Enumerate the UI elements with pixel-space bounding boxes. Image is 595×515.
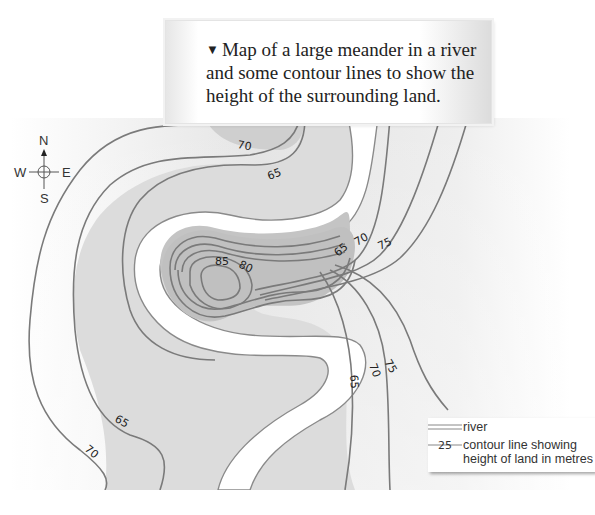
caption-bullet-icon: ▼: [206, 42, 219, 57]
river-symbol-icon: [428, 423, 462, 431]
page-bottom-strip: [0, 490, 595, 515]
compass-west: W: [14, 165, 26, 180]
legend-contour-label: contour line showing height of land in m…: [463, 438, 593, 466]
caption-text: Map of a large meander in a river and so…: [206, 39, 476, 106]
svg-text:70: 70: [236, 138, 252, 153]
compass-rose: N W E S: [14, 133, 74, 213]
svg-text:65: 65: [347, 374, 361, 389]
caption-box: ▼Map of a large meander in a river and s…: [165, 20, 492, 124]
contour-symbol-icon: 25: [428, 438, 462, 452]
compass-east: E: [62, 165, 71, 180]
compass-north: N: [39, 133, 48, 148]
legend-river-label: river: [463, 420, 487, 434]
compass-south: S: [40, 191, 49, 206]
caption: ▼Map of a large meander in a river and s…: [206, 38, 496, 107]
svg-text:85: 85: [215, 255, 229, 268]
meander-map: 70 65 65 70 75 80 85 75 70 65 65 70 ▼Map…: [0, 0, 595, 515]
legend: river 25 contour line showing height of …: [428, 418, 595, 472]
svg-text:25: 25: [438, 439, 452, 452]
